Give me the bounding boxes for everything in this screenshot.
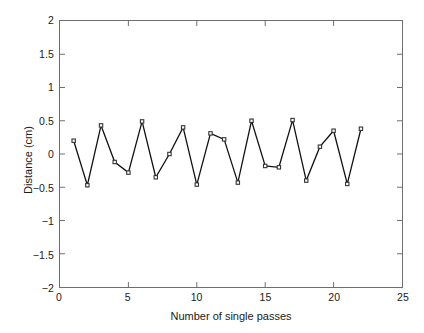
data-point-marker [99, 124, 102, 127]
data-point-marker [332, 129, 335, 132]
data-point-marker [86, 184, 89, 187]
data-point-marker [195, 183, 198, 186]
y-tick-label: 1 [48, 82, 54, 93]
data-point-marker [72, 139, 75, 142]
data-point-marker [277, 166, 280, 169]
data-point-marker [250, 119, 253, 122]
y-tick-label: −1 [42, 216, 54, 227]
data-point-marker [168, 152, 171, 155]
x-tick-label: 15 [259, 292, 271, 303]
data-point-marker [236, 181, 239, 184]
y-tick-label: 1.5 [39, 48, 54, 59]
y-tick-label: 2 [48, 15, 54, 26]
data-point-marker [305, 179, 308, 182]
x-axis-title: Number of single passes [59, 310, 403, 322]
data-point-marker [222, 138, 225, 141]
data-point-marker [318, 145, 321, 148]
x-tick-label: 10 [191, 292, 203, 303]
y-tick-label: 0.5 [39, 115, 54, 126]
data-point-marker [154, 176, 157, 179]
plot-area [59, 20, 403, 288]
x-tick-label: 0 [56, 292, 62, 303]
data-point-marker [264, 164, 267, 167]
y-axis-tick-labels: −2−1.5−1−0.500.511.52 [0, 20, 54, 288]
x-tick-label: 20 [328, 292, 340, 303]
data-point-marker [291, 118, 294, 121]
series-polyline [74, 120, 361, 185]
y-tick-label: −0.5 [33, 182, 54, 193]
data-point-marker [140, 120, 143, 123]
data-point-marker [113, 160, 116, 163]
chart-figure: Distance (cm) −2−1.5−1−0.500.511.52 0510… [0, 0, 424, 333]
y-tick-label: 0 [48, 149, 54, 160]
x-tick-label: 25 [397, 292, 409, 303]
y-tick-label: −1.5 [33, 249, 54, 260]
data-series-line [60, 21, 402, 287]
data-point-marker [209, 132, 212, 135]
x-axis-tick-labels: 0510152025 [0, 292, 424, 308]
data-point-marker [346, 182, 349, 185]
data-point-marker [359, 127, 362, 130]
x-tick-label: 5 [125, 292, 131, 303]
data-point-marker [127, 171, 130, 174]
data-point-marker [181, 126, 184, 129]
